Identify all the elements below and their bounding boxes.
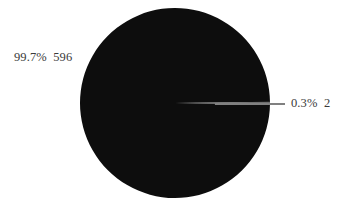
pie-label-major: 99.7% 596 (14, 51, 72, 64)
pie-label-minor: 0.3% 2 (291, 97, 330, 110)
pie-chart-figure: 99.7% 596 0.3% 2 (0, 0, 348, 214)
